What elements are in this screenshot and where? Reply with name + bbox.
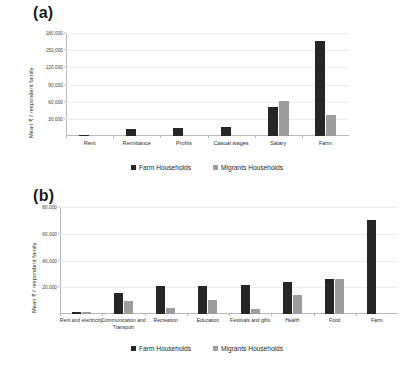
y-axis-title-b: Mean ₹ / respondent family bbox=[31, 242, 37, 313]
bar-farm-households[interactable] bbox=[315, 41, 325, 136]
x-axis-tick-label: Profits bbox=[158, 139, 209, 147]
plot-area-a: 30,00060,00090,000120,000150,000180,000 … bbox=[66, 33, 349, 136]
y-axis-tick-label: 20,000 bbox=[42, 285, 57, 290]
bar-group: Casual wages bbox=[208, 33, 255, 136]
x-axis-tick-label: Recreation bbox=[143, 317, 189, 324]
bar-migrants-households[interactable] bbox=[82, 312, 91, 314]
bar-group: Communication and Transport bbox=[102, 207, 144, 314]
x-axis-tick-mark bbox=[113, 136, 114, 138]
bar-group: Profits bbox=[160, 33, 207, 136]
legend-label-farm-b: Farm Households bbox=[139, 345, 191, 352]
bar-group: Festivals and gifts bbox=[229, 207, 271, 314]
legend-item-migrants-households-b[interactable]: Migrants Households bbox=[213, 345, 283, 352]
x-axis-tick-label: Communication and Transport bbox=[100, 317, 146, 332]
x-axis-tick-label: Rent and electricity bbox=[58, 317, 104, 324]
bar-group: Rent bbox=[66, 33, 113, 136]
bar-farm-households[interactable] bbox=[268, 107, 278, 136]
x-axis-tick-mark bbox=[66, 136, 67, 138]
legend-label-migrants-a: Migrants Households bbox=[221, 164, 283, 171]
chart-panel-a: (a) Mean ₹ / respondent family 30,00060,… bbox=[0, 0, 414, 185]
x-axis-tick-label: Farm bbox=[354, 317, 400, 324]
x-axis-tick-mark bbox=[187, 314, 188, 316]
y-axis-tick-label: 60,000 bbox=[42, 231, 57, 236]
x-axis-tick-mark bbox=[160, 136, 161, 138]
x-axis-tick-mark bbox=[271, 314, 272, 316]
x-axis-tick-label: Health bbox=[269, 317, 315, 324]
bar-farm-households[interactable] bbox=[198, 286, 207, 314]
bar-migrants-households[interactable] bbox=[293, 295, 302, 314]
bar-groups-b: Rent and electricityCommunication and Tr… bbox=[60, 207, 398, 314]
y-axis-tick-label: 40,000 bbox=[42, 258, 57, 263]
x-axis-tick-mark bbox=[102, 314, 103, 316]
bar-migrants-households[interactable] bbox=[326, 115, 336, 136]
bar-group: Farm bbox=[356, 207, 398, 314]
x-axis-tick-label: Food bbox=[312, 317, 358, 324]
legend-swatch-icon-migrants-a bbox=[213, 165, 218, 170]
bar-farm-households[interactable] bbox=[126, 129, 136, 136]
x-axis-tick-label: Farm bbox=[300, 139, 351, 147]
x-axis-tick-label: Salary bbox=[253, 139, 304, 147]
x-axis-tick-mark bbox=[255, 136, 256, 138]
x-axis-tick-mark bbox=[60, 314, 61, 316]
legend-swatch-icon-farm-a bbox=[131, 165, 136, 170]
legend-swatch-icon-farm-b bbox=[131, 346, 136, 351]
bar-farm-households[interactable] bbox=[72, 312, 81, 314]
panel-label-a: (a) bbox=[33, 4, 53, 22]
y-axis-tick-label: 60,000 bbox=[48, 99, 63, 104]
bar-group: Recreation bbox=[145, 207, 187, 314]
x-axis-tick-label: Remittance bbox=[111, 139, 162, 147]
bar-group: Education bbox=[187, 207, 229, 314]
bar-groups-a: RentRemittanceProfitsCasual wagesSalaryF… bbox=[66, 33, 349, 136]
bar-migrants-households[interactable] bbox=[335, 279, 344, 314]
bar-group: Food bbox=[314, 207, 356, 314]
y-axis-tick-label: 120,000 bbox=[46, 65, 63, 70]
y-axis-tick-label: 90,000 bbox=[48, 82, 63, 87]
bar-migrants-households[interactable] bbox=[166, 308, 175, 314]
bar-farm-households[interactable] bbox=[325, 279, 334, 314]
x-axis-tick-label: Festivals and gifts bbox=[227, 317, 273, 324]
plot-area-b: 20,00040,00060,00080,000 Rent and electr… bbox=[60, 207, 398, 314]
bar-farm-households[interactable] bbox=[367, 220, 376, 314]
y-axis-tick-label: 180,000 bbox=[46, 31, 63, 36]
legend-swatch-icon-migrants-b bbox=[213, 346, 218, 351]
bar-farm-households[interactable] bbox=[221, 127, 231, 136]
chart-panel-b: (b) Mean ₹ / respondent family 20,00040,… bbox=[0, 185, 414, 365]
x-axis-tick-mark bbox=[356, 314, 357, 316]
y-axis-title-a: Mean ₹ / respondent family bbox=[28, 67, 34, 138]
panel-label-b: (b) bbox=[33, 187, 54, 205]
x-axis-tick-label: Rent bbox=[64, 139, 115, 147]
y-axis-tick-label: 30,000 bbox=[48, 116, 63, 121]
bar-migrants-households[interactable] bbox=[208, 300, 217, 314]
legend-item-farm-households-a[interactable]: Farm Households bbox=[131, 164, 191, 171]
bar-group: Rent and electricity bbox=[60, 207, 102, 314]
legend-item-farm-households-b[interactable]: Farm Households bbox=[131, 345, 191, 352]
bar-migrants-households[interactable] bbox=[251, 309, 260, 314]
x-axis-tick-mark bbox=[145, 314, 146, 316]
x-axis-tick-mark bbox=[229, 314, 230, 316]
legend-b: Farm Households Migrants Households bbox=[0, 345, 414, 352]
legend-label-farm-a: Farm Households bbox=[139, 164, 191, 171]
legend-item-migrants-households-a[interactable]: Migrants Households bbox=[213, 164, 283, 171]
bar-group: Farm bbox=[302, 33, 349, 136]
bar-farm-households[interactable] bbox=[173, 128, 183, 136]
x-axis-tick-mark bbox=[208, 136, 209, 138]
bar-farm-households[interactable] bbox=[283, 282, 292, 314]
x-axis-tick-label: Casual wages bbox=[206, 139, 257, 147]
bar-farm-households[interactable] bbox=[114, 293, 123, 314]
y-axis-tick-label: 150,000 bbox=[46, 48, 63, 53]
y-axis-tick-label: 80,000 bbox=[42, 205, 57, 210]
x-axis-tick-mark bbox=[314, 314, 315, 316]
bar-farm-households[interactable] bbox=[241, 285, 250, 314]
bar-group: Salary bbox=[255, 33, 302, 136]
bar-farm-households[interactable] bbox=[156, 286, 165, 314]
bar-migrants-households[interactable] bbox=[279, 101, 289, 136]
legend-a: Farm Households Migrants Households bbox=[0, 164, 414, 171]
legend-label-migrants-b: Migrants Households bbox=[221, 345, 283, 352]
x-axis-tick-mark bbox=[302, 136, 303, 138]
bar-farm-households[interactable] bbox=[79, 135, 89, 136]
bar-group: Remittance bbox=[113, 33, 160, 136]
x-axis-tick-label: Education bbox=[185, 317, 231, 324]
bar-migrants-households[interactable] bbox=[124, 301, 133, 314]
bar-group: Health bbox=[271, 207, 313, 314]
